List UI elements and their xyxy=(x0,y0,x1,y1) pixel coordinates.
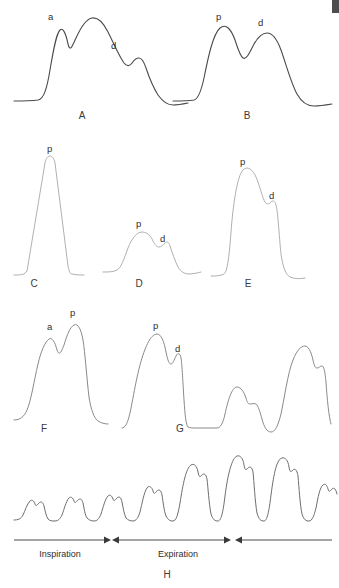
waveform-f-annotation-a: a xyxy=(47,321,53,332)
waveform-h-trace xyxy=(14,456,337,521)
waveform-a-annotation-d: d xyxy=(111,40,116,51)
inspiration-arrowhead-right xyxy=(104,537,111,544)
panel-label-f: F xyxy=(41,423,47,434)
expiration-arrowhead-right xyxy=(224,537,231,544)
panel-label-g: G xyxy=(176,423,184,434)
scan-edge-artifact xyxy=(332,0,339,13)
waveform-f-annotation-p: p xyxy=(70,307,75,318)
panel-label-a: A xyxy=(79,110,86,121)
expiration-label: Expiration xyxy=(158,549,198,559)
next-cycle-arrowhead-left xyxy=(235,537,242,544)
waveform-g-annotation-p: p xyxy=(153,320,158,331)
waveform-e-annotation-d: d xyxy=(269,190,274,201)
waveform-d-annotation-d: d xyxy=(160,233,165,244)
panel-f: a p F xyxy=(14,307,108,434)
waveform-a-annotation-a: a xyxy=(48,11,54,22)
expiration-arrow xyxy=(112,537,231,544)
next-cycle-arrow xyxy=(235,537,332,544)
panel-a: a d A xyxy=(14,11,188,121)
waveform-b-annotation-d: d xyxy=(258,17,263,28)
waveform-g-trace xyxy=(122,334,331,432)
waveform-f-trace xyxy=(14,325,108,424)
waveform-e-annotation-p: p xyxy=(240,156,245,167)
panel-label-e: E xyxy=(245,278,252,289)
panel-e: p d E xyxy=(211,156,305,289)
panel-h: Inspiration Expiration H xyxy=(14,456,337,580)
waveform-a-trace xyxy=(14,18,188,105)
panel-label-b: B xyxy=(244,110,251,121)
panel-d: p d D xyxy=(103,218,201,289)
waveform-figure: a d A p d B p C p d D p d E xyxy=(0,0,339,588)
panel-label-h: H xyxy=(163,569,170,580)
inspiration-label: Inspiration xyxy=(39,549,81,559)
waveform-b-annotation-p: p xyxy=(216,11,221,22)
waveform-e-trace xyxy=(211,168,305,279)
waveform-g-annotation-d: d xyxy=(175,343,180,354)
waveform-c-annotation-p: p xyxy=(47,143,52,154)
panel-c: p C xyxy=(14,143,84,289)
expiration-arrowhead-left xyxy=(112,537,119,544)
panel-label-c: C xyxy=(30,278,37,289)
waveform-d-trace xyxy=(103,232,201,274)
panel-label-d: D xyxy=(135,278,142,289)
inspiration-arrow xyxy=(14,537,111,544)
waveform-c-trace xyxy=(14,156,84,275)
waveform-d-annotation-p: p xyxy=(136,218,141,229)
waveform-b-trace xyxy=(173,26,332,106)
panel-g: p d G xyxy=(122,320,331,434)
panel-b: p d B xyxy=(173,11,332,121)
